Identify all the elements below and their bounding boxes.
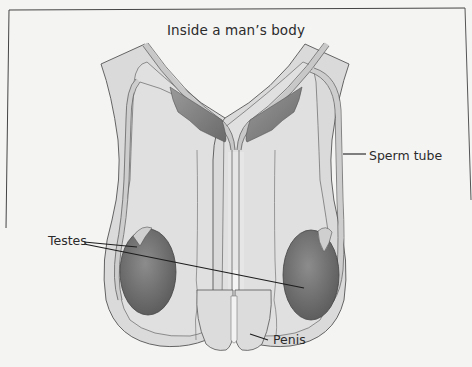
diagram-canvas: Inside a man’s body Sperm tube Testes Pe… <box>0 0 472 367</box>
label-penis: Penis <box>273 332 306 347</box>
label-testes: Testes <box>48 233 87 248</box>
label-sperm-tube: Sperm tube <box>369 148 442 163</box>
penis-shape <box>197 290 272 350</box>
diagram-title: Inside a man’s body <box>0 22 472 38</box>
anatomy-illustration <box>0 0 472 367</box>
